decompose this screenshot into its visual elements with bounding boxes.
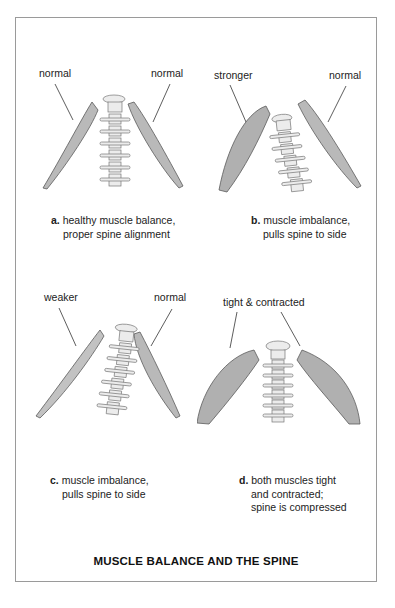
- caption-c: c. muscle imbalance, pulls spine to side: [50, 474, 149, 501]
- spine-icon: [100, 95, 130, 186]
- spine-muscle-illustration-a: [16, 18, 197, 198]
- figure-frame: normal normal a. healthy muscle balance,: [15, 17, 377, 582]
- panel-b: stronger normal b. muscle imbalance, pul…: [197, 18, 378, 278]
- spine-muscle-illustration-b: [197, 18, 378, 198]
- right-muscle-normal: [128, 102, 183, 188]
- right-muscle-tight: [297, 350, 360, 424]
- spine-muscle-illustration-d: [197, 278, 378, 458]
- panel-a: normal normal a. healthy muscle balance,: [16, 18, 197, 278]
- panel-c: weaker normal c. muscle imbalance, pulls…: [16, 278, 197, 538]
- right-muscle-normal: [298, 100, 361, 188]
- panel-d: tight & contracted d. both muscles tight…: [197, 278, 378, 538]
- right-muscle-normal: [134, 332, 180, 418]
- figure-title: MUSCLE BALANCE AND THE SPINE: [16, 555, 376, 567]
- caption-b: b. muscle imbalance, pulls spine to side: [251, 214, 350, 241]
- spine-muscle-illustration-c: [16, 278, 197, 458]
- caption-d: d. both muscles tight and contracted; sp…: [239, 474, 347, 515]
- spine-icon: [263, 341, 293, 422]
- left-muscle-weaker: [36, 330, 104, 418]
- left-muscle-tight: [197, 350, 259, 424]
- caption-a: a. healthy muscle balance, proper spine …: [51, 214, 175, 241]
- spine-icon: [268, 112, 313, 193]
